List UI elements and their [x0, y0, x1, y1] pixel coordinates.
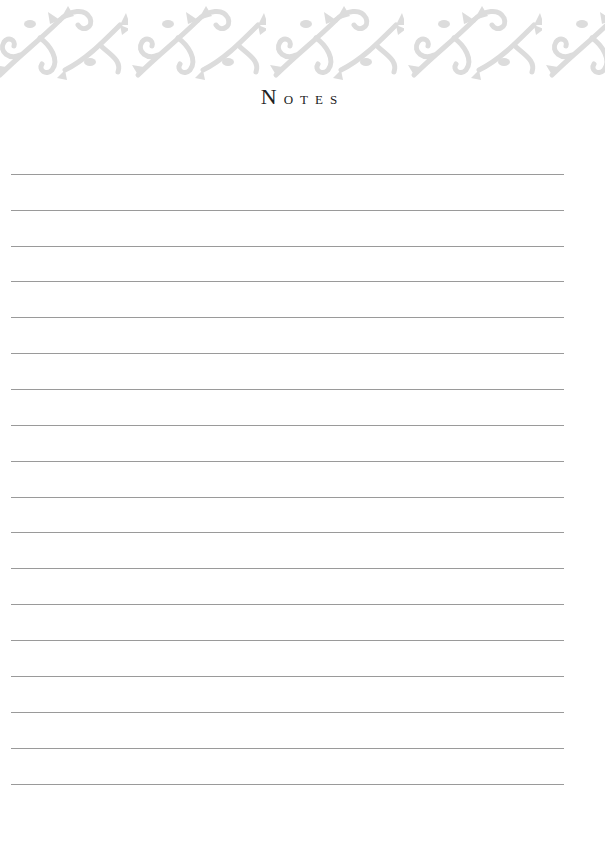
ruled-line	[11, 748, 564, 749]
ruled-line	[11, 676, 564, 677]
ruled-line	[11, 568, 564, 569]
ruled-line	[11, 425, 564, 426]
ruled-line	[11, 532, 564, 533]
ruled-line	[11, 281, 564, 282]
ruled-line	[11, 640, 564, 641]
ruled-line	[11, 317, 564, 318]
ruled-line	[11, 712, 564, 713]
ruled-line	[11, 353, 564, 354]
ruled-lines-area[interactable]	[11, 0, 564, 864]
ruled-line	[11, 604, 564, 605]
ruled-line	[11, 784, 564, 785]
ruled-line	[11, 246, 564, 247]
ruled-line	[11, 210, 564, 211]
ruled-line	[11, 461, 564, 462]
ruled-line	[11, 389, 564, 390]
ruled-line	[11, 174, 564, 175]
ruled-line	[11, 497, 564, 498]
